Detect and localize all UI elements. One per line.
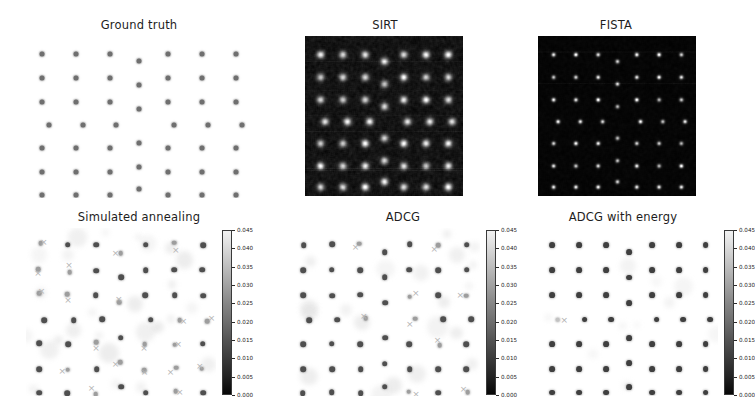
background-residual (588, 349, 598, 359)
recovered-atom (301, 242, 307, 248)
ground-truth-atom (137, 83, 142, 88)
background-residual (54, 336, 63, 345)
colorbar-tick-label: 0.035 (739, 264, 755, 270)
recovered-atom (118, 275, 124, 281)
colorbar-tick-label: 0.020 (501, 319, 517, 325)
background-residual (135, 234, 142, 241)
recovered-atom (71, 317, 77, 323)
recovered-atom (676, 242, 682, 248)
recovered-atom (550, 341, 556, 347)
ground-truth-marker: × (434, 335, 442, 344)
colorbar-tick (496, 377, 499, 378)
recovered-atom (464, 242, 470, 248)
background-residual (618, 322, 626, 330)
panel-fista: FISTA (530, 18, 702, 204)
recovered-atom (329, 267, 335, 273)
recovered-atom (93, 242, 99, 248)
recovered-atom (556, 317, 561, 322)
background-residual (95, 332, 102, 339)
ground-truth-atom (107, 52, 112, 57)
background-residual (465, 282, 473, 290)
panel-title-sirt: SIRT (300, 18, 470, 32)
ground-truth-atom (200, 192, 205, 197)
colorbar-tick-label: 0.020 (739, 319, 755, 325)
recovered-atom (174, 366, 179, 371)
recovered-atom (603, 390, 609, 396)
recovered-atom (649, 242, 655, 248)
recovered-atom (382, 274, 388, 280)
ground-truth-atom (166, 52, 171, 57)
colorbar-tick (496, 340, 499, 341)
recovered-atom (676, 366, 682, 372)
recovered-atom (703, 242, 709, 248)
recovered-atom (576, 242, 582, 248)
recovered-atom (407, 341, 413, 347)
plot-sirt (305, 36, 463, 196)
colorbar-tick (734, 322, 737, 323)
recovered-atom (435, 367, 441, 373)
ground-truth-atom (137, 187, 142, 192)
background-residual (88, 308, 97, 317)
ground-truth-atom (80, 123, 85, 128)
recovered-atom (603, 267, 609, 273)
ground-truth-marker: × (40, 237, 48, 246)
colorbar-tick (496, 248, 499, 249)
colorbar-tick-label: 0.025 (237, 300, 253, 306)
recovered-atom (603, 366, 609, 372)
recovered-atom (382, 361, 388, 367)
colorbar-tick-label: 0.010 (501, 355, 517, 361)
ground-truth-atom (107, 76, 112, 81)
colorbar-tick-label: 0.040 (739, 245, 755, 251)
colorbar-tick-label: 0.015 (739, 337, 755, 343)
ground-truth-atom (39, 170, 44, 175)
recovered-atom (118, 335, 124, 341)
recovered-atom (199, 267, 205, 273)
ground-truth-marker: × (175, 339, 183, 348)
colorbar-tick-label: 0.035 (237, 264, 253, 270)
ground-truth-marker: × (456, 290, 464, 299)
ground-truth-atom (200, 100, 205, 105)
ground-truth-atom (234, 100, 239, 105)
recovered-atom (358, 292, 364, 298)
recovered-atom (676, 292, 682, 298)
ground-truth-atom (166, 192, 171, 197)
panel-title-adcg: ADCG (272, 210, 534, 224)
recovered-atom (550, 390, 556, 396)
colorbar-tick-label: 0.005 (237, 374, 253, 380)
recovered-atom (436, 292, 442, 298)
colorbar-tick (496, 230, 499, 231)
colorbar-tick-label: 0.010 (739, 355, 755, 361)
ground-truth-atom (234, 76, 239, 81)
ground-truth-marker: × (92, 343, 100, 352)
colorbar-tick (496, 395, 499, 396)
ground-truth-marker: × (172, 246, 180, 255)
sirt-reconstruction-image (305, 36, 463, 196)
recovered-atom (407, 242, 413, 248)
recovered-atom (464, 294, 469, 299)
recovered-atom (307, 317, 313, 323)
ground-truth-atom (200, 52, 205, 57)
colorbar-tick (232, 340, 235, 341)
colorbar-simulated-annealing: 0.0450.0400.0350.0300.0250.0200.0150.010… (222, 230, 232, 395)
background-residual (300, 299, 318, 317)
ground-truth-atom (107, 170, 112, 175)
ground-truth-atom (39, 192, 44, 197)
panel-adcg: ADCG ××××××××× 0.0450.0400.0350.0300.025… (272, 210, 534, 402)
ground-truth-atom (137, 140, 142, 145)
ground-truth-atom (200, 170, 205, 175)
recovered-atom (329, 341, 335, 347)
recovered-atom (382, 250, 388, 256)
colorbar-tick (734, 395, 737, 396)
recovered-atom (626, 335, 632, 341)
recovered-atom (143, 242, 149, 248)
recovered-atom (464, 341, 470, 347)
recovered-atom (626, 275, 632, 281)
recovered-atom (301, 341, 307, 347)
ground-truth-marker: × (64, 296, 72, 305)
plot-adcg: ××××××××× (290, 228, 480, 396)
ground-truth-atom (73, 192, 78, 197)
recovered-atom (358, 367, 364, 373)
background-residual (68, 228, 86, 246)
ground-truth-marker: × (34, 269, 42, 278)
colorbar-tick (496, 267, 499, 268)
